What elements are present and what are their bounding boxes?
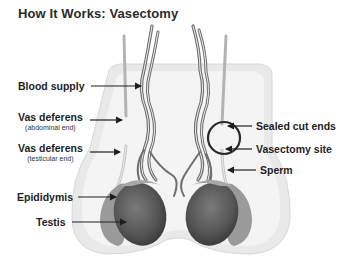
label-sealed-cut-ends: Sealed cut ends xyxy=(256,120,336,132)
label-text: Vasectomy site xyxy=(256,143,332,155)
label-testis: Testis xyxy=(36,216,66,228)
label-blood-supply: Blood supply xyxy=(18,80,85,92)
label-vas-deferens-abdominal: Vas deferens (abdominal end) xyxy=(18,111,83,131)
label-epididymis: Epididymis xyxy=(17,191,73,203)
label-text: Sperm xyxy=(260,164,293,176)
label-subtext: (testicular end) xyxy=(18,155,83,162)
label-subtext: (abdominal end) xyxy=(18,124,83,131)
label-text: Vas deferens xyxy=(18,142,83,154)
label-text: Sealed cut ends xyxy=(256,120,336,132)
label-vas-deferens-testicular: Vas deferens (testicular end) xyxy=(18,142,83,162)
label-text: Testis xyxy=(36,216,66,228)
label-text: Vas deferens xyxy=(18,111,83,123)
label-sperm: Sperm xyxy=(260,164,293,176)
label-text: Blood supply xyxy=(18,80,85,92)
label-vasectomy-site: Vasectomy site xyxy=(256,143,332,155)
label-text: Epididymis xyxy=(17,191,73,203)
